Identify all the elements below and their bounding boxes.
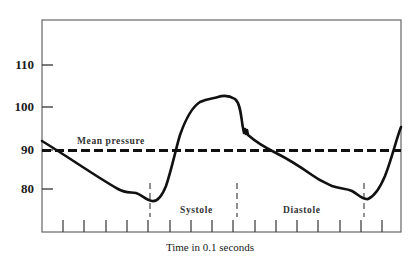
diastole-label: Diastole xyxy=(283,205,321,215)
mean-pressure-label: Mean pressure xyxy=(77,136,145,146)
y-tick-label-80: 80 xyxy=(6,182,34,196)
x-axis-title: Time in 0.1 seconds xyxy=(0,241,420,253)
y-ticks xyxy=(42,65,53,189)
pressure-curve xyxy=(42,96,401,201)
y-tick-label-90: 90 xyxy=(6,143,34,157)
plot-frame xyxy=(42,20,401,232)
y-tick-label-110: 110 xyxy=(6,58,34,72)
x-ticks xyxy=(63,220,382,232)
y-tick-label-100: 100 xyxy=(6,100,34,114)
systole-label: Systole xyxy=(180,205,213,215)
pressure-chart xyxy=(0,0,420,260)
